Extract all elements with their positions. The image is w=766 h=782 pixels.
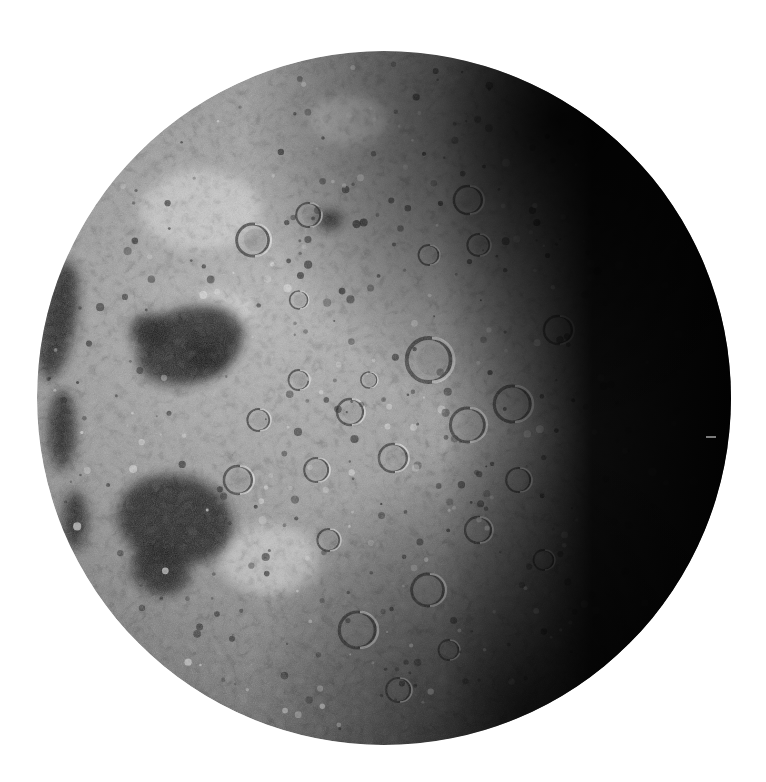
edge-speck xyxy=(706,436,716,438)
photo-frame: Moon xyxy=(0,0,766,782)
moon-photograph xyxy=(0,0,766,782)
